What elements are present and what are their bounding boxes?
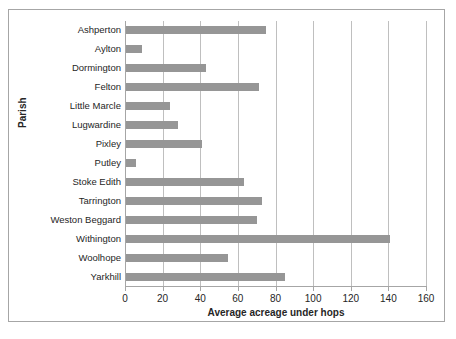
bar xyxy=(125,121,178,129)
bar-row xyxy=(125,267,426,286)
y-tick-label: Stoke Edith xyxy=(72,177,121,187)
bar xyxy=(125,197,262,205)
y-tick-label: Tarrington xyxy=(79,196,121,206)
bar xyxy=(125,235,390,243)
x-tick-label: 0 xyxy=(105,293,145,305)
x-tick-label: 60 xyxy=(218,293,258,305)
bar-row xyxy=(125,21,426,40)
bar xyxy=(125,216,257,224)
bar xyxy=(125,26,266,34)
x-tick-mark-40 xyxy=(200,287,201,291)
bar xyxy=(125,140,202,148)
bar-row xyxy=(125,59,426,78)
bar-series xyxy=(125,21,426,286)
bar xyxy=(125,64,206,72)
bar xyxy=(125,102,170,110)
bar-row xyxy=(125,116,426,135)
bar-row xyxy=(125,229,426,248)
x-tick-mark-80 xyxy=(276,287,277,291)
bar-row xyxy=(125,154,426,173)
y-axis-title: Parish xyxy=(17,97,28,128)
bar xyxy=(125,254,228,262)
bar-row xyxy=(125,97,426,116)
bar-row xyxy=(125,210,426,229)
y-tick-label: Ashperton xyxy=(78,25,121,35)
x-tick-mark-120 xyxy=(351,287,352,291)
y-tick-label: Pixley xyxy=(96,139,121,149)
bar-row xyxy=(125,135,426,154)
x-tick-mark-20 xyxy=(163,287,164,291)
x-tick-label: 140 xyxy=(368,293,408,305)
bar xyxy=(125,159,136,167)
x-tick-label: 120 xyxy=(331,293,371,305)
y-tick-label: Felton xyxy=(95,82,121,92)
y-tick-label: Little Marcle xyxy=(70,101,121,111)
gridline-160 xyxy=(426,21,427,286)
y-tick-label: Woolhope xyxy=(78,253,121,263)
x-tick-label: 20 xyxy=(143,293,183,305)
plot-area xyxy=(125,21,426,286)
x-tick-label: 100 xyxy=(293,293,333,305)
y-tick-label: Dormington xyxy=(72,63,121,73)
bar xyxy=(125,178,244,186)
x-tick-mark-60 xyxy=(238,287,239,291)
bar xyxy=(125,83,259,91)
bar-row xyxy=(125,40,426,59)
y-tick-label: Putley xyxy=(95,158,121,168)
bar xyxy=(125,45,142,53)
x-tick-mark-140 xyxy=(388,287,389,291)
x-tick-label: 40 xyxy=(180,293,220,305)
x-tick-label: 80 xyxy=(256,293,296,305)
bar-row xyxy=(125,191,426,210)
y-axis-line xyxy=(125,21,126,287)
bar-row xyxy=(125,172,426,191)
y-tick-label: Lugwardine xyxy=(72,120,121,130)
bar xyxy=(125,273,285,281)
bar-row xyxy=(125,78,426,97)
x-tick-mark-160 xyxy=(426,287,427,291)
y-tick-label: Aylton xyxy=(95,44,121,54)
x-axis-title: Average acreage under hops xyxy=(125,307,427,318)
y-tick-label: Weston Beggard xyxy=(50,215,121,225)
x-tick-label: 160 xyxy=(406,293,446,305)
y-axis-tick-labels: AshpertonAyltonDormingtonFeltonLittle Ma… xyxy=(39,21,121,286)
x-tick-mark-0 xyxy=(125,287,126,291)
x-tick-mark-100 xyxy=(313,287,314,291)
y-tick-label: Yarkhill xyxy=(91,272,121,282)
y-tick-label: Withington xyxy=(76,234,121,244)
bar-row xyxy=(125,248,426,267)
chart-frame: Parish AshpertonAyltonDormingtonFeltonLi… xyxy=(8,9,445,322)
